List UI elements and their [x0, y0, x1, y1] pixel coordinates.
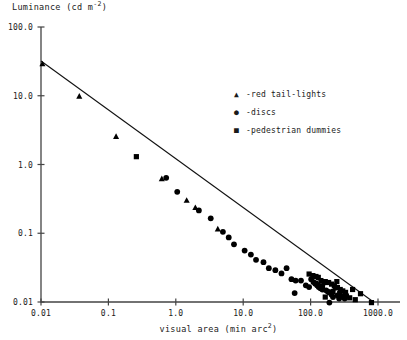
square-marker: [358, 291, 363, 296]
axis-ticks: [38, 27, 379, 306]
square-marker: [334, 279, 339, 284]
x-axis-label: visual area (min arc2): [0, 324, 407, 334]
circle-marker: [272, 267, 278, 273]
axis-spine: [41, 27, 400, 302]
circle-marker: [174, 189, 180, 195]
triangle-marker: [113, 133, 119, 139]
y-tick-label: 0.01: [0, 298, 33, 307]
x-tick-label: 10.0: [233, 309, 253, 318]
circle-marker: [226, 235, 232, 241]
circle-marker: [208, 215, 214, 221]
circle-marker: [248, 252, 254, 258]
triangle-marker: [215, 226, 221, 232]
circle-marker: [196, 207, 202, 213]
circle-marker: [293, 278, 299, 284]
circle-marker: [326, 300, 332, 306]
series-pedestrian-dummies: [134, 154, 374, 305]
circle-marker: [231, 241, 237, 247]
circle-marker: [292, 290, 298, 296]
x-tick-label: 0.01: [31, 309, 51, 318]
y-tick-label: 100.0: [0, 23, 33, 32]
legend-item-red-tail-lights: ▲ -red tail-lights: [234, 85, 341, 103]
legend-label-red-tail-lights: -red tail-lights: [246, 90, 326, 99]
x-tick-label: 1.0: [168, 309, 183, 318]
circle-marker: [279, 271, 285, 277]
y-tick-label: 1.0: [0, 160, 33, 169]
chart-legend: ▲ -red tail-lights ● -discs ■ -pedestria…: [234, 85, 341, 139]
plot-canvas: [0, 0, 407, 340]
square-marker: [353, 297, 358, 302]
triangle-marker-icon: ▲: [234, 90, 246, 99]
triangle-marker: [76, 93, 82, 99]
circle-marker: [163, 175, 169, 181]
legend-item-discs: ● -discs: [234, 103, 341, 121]
circle-marker: [284, 265, 290, 271]
x-tick-label: 0.1: [101, 309, 116, 318]
x-axis-label-tail: ): [272, 324, 277, 334]
square-marker: [350, 287, 355, 292]
x-tick-label: 100.0: [298, 309, 323, 318]
square-marker: [347, 295, 352, 300]
legend-label-pedestrian-dummies: -pedestrian dummies: [246, 126, 341, 135]
circle-marker: [220, 229, 226, 235]
circle-marker: [242, 248, 248, 254]
legend-item-pedestrian-dummies: ■ -pedestrian dummies: [234, 121, 341, 139]
y-tick-label: 0.1: [0, 229, 33, 238]
circle-marker: [253, 257, 259, 263]
series-red-tail-lights: [39, 61, 220, 232]
circle-marker: [261, 259, 267, 265]
square-marker: [134, 154, 139, 159]
circle-marker-icon: ●: [234, 108, 246, 117]
x-axis-label-text: visual area (min arc: [160, 324, 268, 334]
circle-marker: [306, 284, 312, 290]
circle-marker: [298, 278, 304, 284]
square-marker: [323, 294, 328, 299]
square-marker: [330, 289, 335, 294]
triangle-marker: [184, 197, 190, 203]
square-marker: [369, 300, 374, 305]
y-tick-label: 10.0: [0, 91, 33, 100]
legend-label-discs: -discs: [246, 108, 276, 117]
x-tick-label: 1000.0: [363, 309, 393, 318]
square-marker-icon: ■: [234, 126, 246, 135]
luminance-visual-area-scatter-chart: Luminance (cd m-2) 0.010.11.010.0100.0 0…: [0, 0, 407, 340]
circle-marker: [266, 265, 272, 271]
